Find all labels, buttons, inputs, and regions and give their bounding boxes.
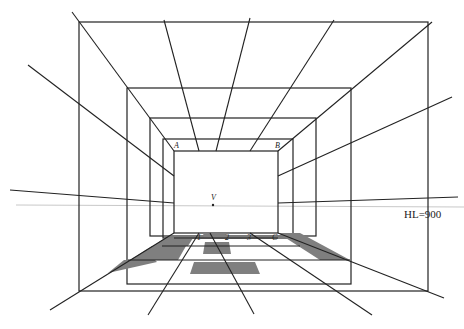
perspective-diagram: A B V 1 2 3 C HL=900: [0, 0, 464, 329]
vanishing-point: [212, 204, 214, 206]
label-b: B: [275, 142, 280, 150]
label-v: V: [211, 194, 216, 202]
label-1: 1: [197, 234, 201, 242]
frames: [79, 22, 428, 291]
label-c: C: [272, 234, 277, 242]
label-a: A: [174, 142, 179, 150]
horizon-line: [16, 205, 464, 207]
perspective-drawing: [0, 0, 464, 329]
horizon-label: HL=900: [404, 209, 441, 220]
label-3: 3: [247, 234, 251, 242]
label-2: 2: [225, 234, 229, 242]
